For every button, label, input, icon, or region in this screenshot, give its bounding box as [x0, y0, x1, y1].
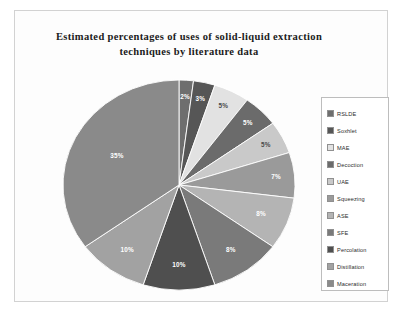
legend-item-label: ASE: [337, 213, 349, 219]
figure-frame: Estimated percentages of uses of solid-l…: [14, 10, 388, 302]
pie-slice-label: 5%: [218, 102, 228, 109]
legend-item: RSLDE: [327, 105, 388, 122]
legend-swatch-icon: [327, 246, 334, 253]
legend-item-label: UAE: [337, 179, 349, 185]
legend-swatch-icon: [327, 110, 334, 117]
pie-slice-label: 10%: [172, 261, 186, 268]
legend-swatch-icon: [327, 263, 334, 270]
legend-item: Percolation: [327, 241, 388, 258]
legend-swatch-icon: [327, 229, 334, 236]
pie-slice-label: 8%: [256, 210, 266, 217]
chart-legend: RSLDESoxhletMAEDecoctionUAESqueezingASES…: [321, 97, 389, 291]
legend-item-label: Decoction: [337, 162, 363, 168]
pie-chart-svg: 2%3%5%5%5%7%8%8%10%10%35%: [61, 77, 301, 295]
pie-slice-label: 10%: [121, 246, 135, 253]
legend-item-label: RSLDE: [337, 111, 356, 117]
legend-item-label: Maceration: [337, 281, 366, 287]
pie-slice-group: [63, 80, 295, 290]
legend-item-label: SFE: [337, 230, 348, 236]
legend-item-label: Squeezing: [337, 196, 365, 202]
pie-slice-label: 5%: [261, 141, 271, 148]
legend-item: Squeezing: [327, 190, 388, 207]
legend-item: Maceration: [327, 275, 388, 292]
chart-title: Estimated percentages of uses of solid-l…: [39, 29, 339, 59]
legend-item-label: Percolation: [337, 247, 367, 253]
legend-item: SFE: [327, 224, 388, 241]
legend-swatch-icon: [327, 161, 334, 168]
legend-list: RSLDESoxhletMAEDecoctionUAESqueezingASES…: [327, 105, 388, 292]
pie-slice-label: 8%: [226, 246, 236, 253]
pie-slice-label: 35%: [110, 152, 124, 159]
legend-item: ASE: [327, 207, 388, 224]
pie-chart: 2%3%5%5%5%7%8%8%10%10%35%: [61, 77, 301, 295]
legend-item-label: Soxhlet: [337, 128, 357, 134]
legend-item: MAE: [327, 139, 388, 156]
legend-item: Distillation: [327, 258, 388, 275]
legend-swatch-icon: [327, 144, 334, 151]
legend-swatch-icon: [327, 127, 334, 134]
legend-item: UAE: [327, 173, 388, 190]
pie-slice-label: 5%: [243, 119, 253, 126]
pie-slice-label: 2%: [180, 93, 190, 100]
legend-item-label: MAE: [337, 145, 350, 151]
pie-slice-label: 3%: [195, 95, 205, 102]
legend-swatch-icon: [327, 212, 334, 219]
legend-swatch-icon: [327, 280, 334, 287]
pie-slice-label: 7%: [271, 173, 281, 180]
legend-swatch-icon: [327, 195, 334, 202]
legend-item-label: Distillation: [337, 264, 364, 270]
legend-item: Soxhlet: [327, 122, 388, 139]
legend-item: Decoction: [327, 156, 388, 173]
legend-swatch-icon: [327, 178, 334, 185]
